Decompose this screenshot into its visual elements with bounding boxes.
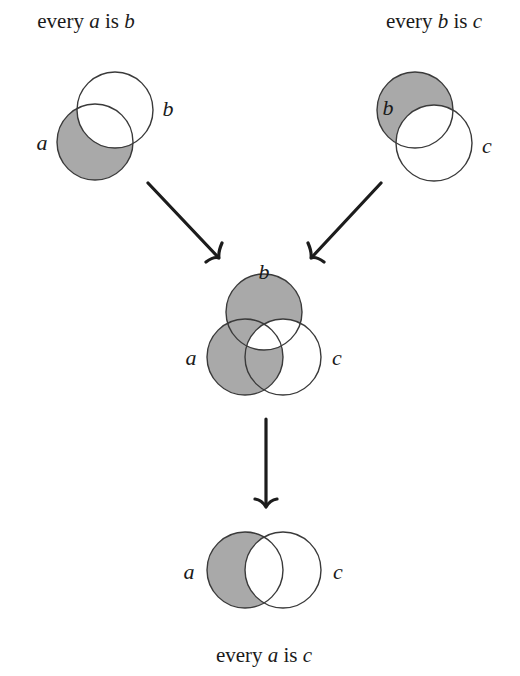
arrow-right xyxy=(308,183,381,262)
label-b: b xyxy=(383,97,394,119)
label-c: c xyxy=(332,347,342,369)
premise-2-caption: every b is c xyxy=(386,9,482,33)
venn-combined xyxy=(207,274,321,395)
premise-1-caption: every a is b xyxy=(37,9,134,33)
arrow-left xyxy=(148,183,222,262)
caption-variable: a xyxy=(89,9,100,33)
label-a: a xyxy=(184,561,195,583)
label-a: a xyxy=(37,132,48,154)
venn-conclusion xyxy=(207,532,321,608)
caption-variable: c xyxy=(473,9,482,33)
arrow-down xyxy=(255,419,277,507)
arrow-shaft xyxy=(312,183,381,257)
caption-variable: b xyxy=(124,9,135,33)
label-b: b xyxy=(259,261,270,283)
caption-text: is xyxy=(278,643,303,667)
caption-text: every xyxy=(216,643,268,667)
label-a: a xyxy=(186,347,197,369)
caption-text: is xyxy=(100,9,125,33)
venn-premise-1 xyxy=(57,72,153,180)
conclusion-caption: every a is c xyxy=(216,643,312,667)
label-b: b xyxy=(163,98,174,120)
venn-premise-2 xyxy=(377,72,472,181)
label-c: c xyxy=(482,135,492,157)
caption-text: every xyxy=(386,9,438,33)
arrow-shaft xyxy=(148,183,218,257)
venn-syllogism-diagram xyxy=(0,0,520,676)
caption-text: every xyxy=(37,9,89,33)
caption-text: is xyxy=(448,9,473,33)
caption-variable: b xyxy=(438,9,449,33)
label-c: c xyxy=(333,561,343,583)
caption-variable: c xyxy=(303,643,312,667)
caption-variable: a xyxy=(268,643,279,667)
